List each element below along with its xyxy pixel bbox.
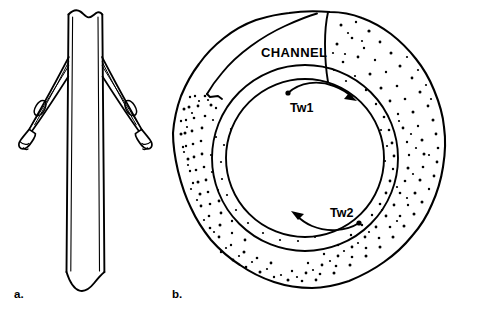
wing-left-tip [19,129,36,149]
panel-b: Tw1 Tw2 CHANNEL b. [172,11,445,300]
tw1-arrow [285,83,357,101]
figure-root: Two-panel scientific line drawing: (a) a… [0,0,480,313]
shaft-body [67,15,105,273]
tw1-label: Tw1 [290,101,313,115]
panel-a-letter: a. [14,288,24,300]
wing-left [19,57,69,150]
shaft-top-break [69,10,103,17]
shaft-bottom-break [67,272,105,291]
tw1-start-dot [285,90,290,95]
panel-b-letter: b. [172,288,182,300]
tw2-start-dot [356,220,361,225]
channel-label: CHANNEL [261,45,327,60]
tw2-arrowhead [291,211,304,220]
wing-right-tip [135,129,152,149]
wall-stipple [180,21,440,283]
figure-canvas: Two-panel scientific line drawing: (a) a… [0,0,480,313]
wing-right [102,57,152,150]
tw2-label: Tw2 [330,206,353,220]
panel-a: a. [14,10,152,300]
